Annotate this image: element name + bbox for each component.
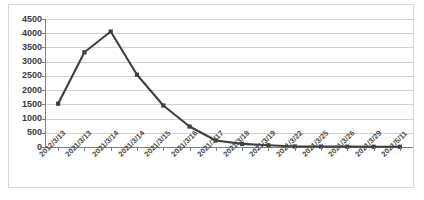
x-axis-tick-mark — [374, 147, 375, 151]
data-point-marker — [161, 103, 165, 107]
x-axis-tick-mark — [163, 147, 164, 151]
data-point-marker — [109, 29, 113, 33]
x-axis-tick-mark — [216, 147, 217, 151]
x-axis-tick-mark — [295, 147, 296, 151]
x-axis-tick-mark — [84, 147, 85, 151]
x-axis-tick-mark — [321, 147, 322, 151]
data-point-marker — [82, 50, 86, 54]
y-axis-tick-mark — [42, 76, 46, 77]
y-axis-tick-mark — [42, 19, 46, 20]
y-axis-tick-mark — [42, 133, 46, 134]
x-axis-tick-mark — [268, 147, 269, 151]
data-point-marker — [135, 73, 139, 77]
data-point-marker — [56, 102, 60, 106]
x-axis-tick-mark — [242, 147, 243, 151]
data-point-marker — [187, 124, 191, 128]
line-series-layer — [9, 5, 415, 189]
y-axis-tick-mark — [42, 104, 46, 105]
chart-container: 050010001500200025003000350040004500 201… — [8, 4, 414, 188]
x-axis-tick-mark — [400, 147, 401, 151]
x-axis-tick-mark — [190, 147, 191, 151]
y-axis-tick-mark — [42, 47, 46, 48]
y-axis-tick-mark — [42, 90, 46, 91]
y-axis-tick-mark — [42, 119, 46, 120]
x-axis-tick-mark — [58, 147, 59, 151]
y-axis-tick-mark — [42, 62, 46, 63]
x-axis-tick-mark — [111, 147, 112, 151]
y-axis-tick-mark — [42, 33, 46, 34]
x-axis-tick-mark — [347, 147, 348, 151]
x-axis-tick-mark — [137, 147, 138, 151]
